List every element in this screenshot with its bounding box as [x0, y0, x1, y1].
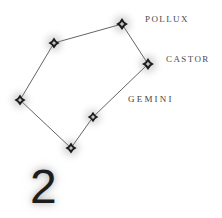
asterism-lines [20, 24, 148, 148]
constellation-name-gemini: Gemini [128, 91, 174, 105]
star-icon [45, 34, 62, 51]
star-icon [62, 139, 79, 156]
constellation-card: Pollux Castor Gemini 2 [0, 0, 222, 218]
asterism-line [20, 100, 71, 148]
asterism-line [54, 24, 122, 43]
asterism-line [20, 43, 54, 100]
star-icon [139, 55, 157, 73]
star-nodes [11, 15, 157, 157]
star-label-castor: Castor [166, 52, 210, 65]
page-number: 2 [30, 163, 57, 211]
star-icon [85, 109, 101, 125]
star-icon [113, 15, 131, 33]
star-icon [11, 91, 28, 108]
star-label-pollux: Pollux [145, 12, 189, 25]
